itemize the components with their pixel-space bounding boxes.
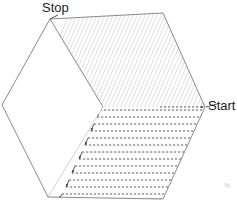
coverage-path-figure: Stop Start % bbox=[0, 0, 237, 203]
corner-artifact-text: % bbox=[224, 182, 230, 189]
figure-canvas bbox=[0, 0, 237, 203]
stop-label: Stop bbox=[42, 1, 69, 14]
start-label: Start bbox=[208, 99, 235, 112]
